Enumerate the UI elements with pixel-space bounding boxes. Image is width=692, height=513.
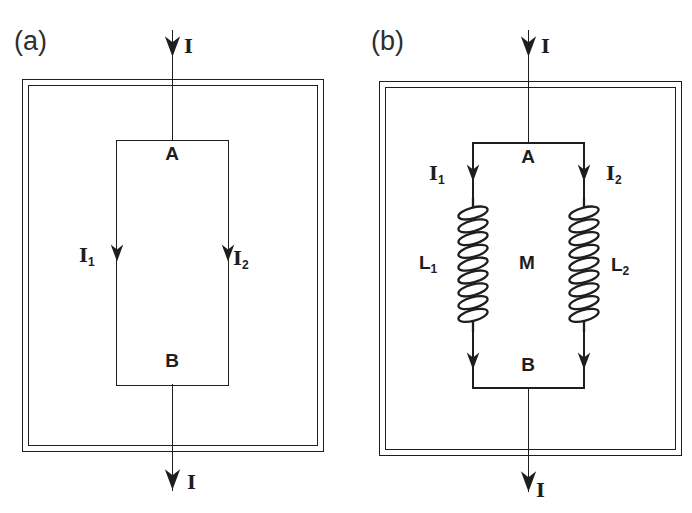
current-out-arrow-b — [520, 470, 537, 493]
label-sub: 1 — [431, 262, 438, 276]
inductor-coil-right — [562, 198, 606, 332]
top-rail-wire-b — [472, 142, 585, 144]
current-in-arrow-b — [520, 35, 537, 58]
circuit-diagram: (a) I A I1 I2 B I (b) — [0, 0, 692, 513]
branch-right-arrow-b — [577, 163, 591, 183]
current-in-arrow-a — [164, 35, 181, 58]
current-i2-label-a: I2 — [233, 249, 249, 268]
inductor-l1-label: L1 — [419, 253, 437, 272]
label-base: I — [606, 162, 615, 184]
current-i1-label-b: I1 — [429, 164, 445, 183]
label-base: L — [611, 254, 623, 275]
node-a-label-fig-a: A — [159, 144, 185, 163]
label-base: L — [419, 252, 431, 273]
current-in-label-b: I — [541, 37, 550, 56]
current-out-arrow-a — [164, 468, 181, 491]
node-b-label-fig-b: B — [515, 355, 541, 374]
branch-left-arrow-b — [466, 163, 480, 183]
node-a-label-fig-b: A — [515, 147, 541, 166]
current-i2-label-b: I2 — [606, 164, 622, 183]
panel-a-label: (a) — [14, 28, 47, 55]
mutual-inductance-label: M — [519, 253, 535, 272]
branch-left-arrow-a — [110, 243, 124, 263]
branch-right-lower-arrow-b — [577, 351, 591, 371]
label-sub: 1 — [88, 255, 95, 269]
label-sub: 2 — [615, 173, 622, 187]
label-base: I — [233, 247, 242, 269]
label-base: I — [79, 244, 88, 266]
inductor-coil-left — [451, 198, 495, 332]
branch-left-lower-arrow-b — [466, 351, 480, 371]
current-out-label-a: I — [187, 473, 196, 492]
panel-b-label: (b) — [371, 28, 404, 55]
current-in-label-a: I — [184, 37, 193, 56]
label-sub: 2 — [242, 258, 249, 272]
label-base: I — [429, 162, 438, 184]
label-sub: 2 — [623, 264, 630, 278]
node-b-label-fig-a: B — [159, 351, 185, 370]
current-i1-label-a: I1 — [79, 246, 95, 265]
current-out-label-b: I — [536, 481, 545, 500]
inductor-l2-label: L2 — [611, 255, 629, 274]
label-sub: 1 — [438, 173, 445, 187]
